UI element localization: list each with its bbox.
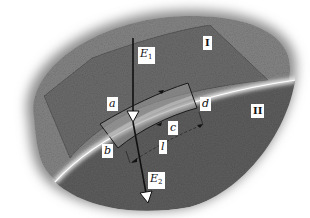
- label-e1: E1: [138, 47, 155, 64]
- label-length-l: l: [159, 140, 167, 154]
- label-region-one: I: [203, 36, 212, 50]
- label-corner-d: d: [200, 97, 211, 111]
- label-corner-b: b: [102, 144, 113, 158]
- boundary-diagram: E1 I a d II c b l E2: [0, 0, 310, 218]
- label-corner-c: c: [168, 121, 178, 135]
- label-e2: E2: [148, 172, 165, 189]
- label-region-two: II: [251, 104, 264, 118]
- label-corner-a: a: [107, 97, 118, 111]
